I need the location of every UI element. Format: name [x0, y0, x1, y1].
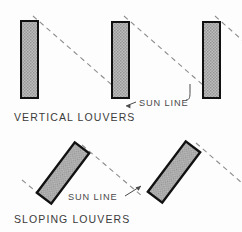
lower-sun-line-label: SUN LINE [68, 192, 118, 202]
vertical-louver-1 [21, 21, 38, 98]
sloping-louvers-caption: SLOPING LOUVERS [14, 213, 130, 225]
vertical-louvers-caption: VERTICAL LOUVERS [14, 111, 135, 123]
upper-sun-line-label: SUN LINE [139, 98, 189, 108]
louver-diagram: SUN LINE VERTICAL LOUVERS S [0, 0, 242, 232]
vertical-louver-3 [203, 22, 220, 98]
vertical-louver-2 [112, 22, 129, 98]
diagram-canvas: SUN LINE VERTICAL LOUVERS S [0, 0, 242, 232]
